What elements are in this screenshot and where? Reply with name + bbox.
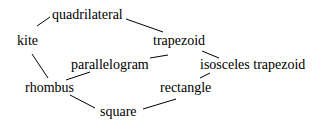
node-square: square (100, 105, 137, 119)
node-parallelogram: parallelogram (71, 58, 149, 72)
node-quadrilateral: quadrilateral (52, 8, 123, 22)
edge-trapezoid-parallelogram (150, 55, 168, 58)
edge-quadrilateral-trapezoid (126, 19, 163, 32)
edge-parallelogram-rhombus (66, 72, 90, 80)
node-rectangle: rectangle (160, 81, 211, 95)
node-kite: kite (17, 34, 38, 48)
node-trapezoid: trapezoid (153, 34, 205, 48)
edge-kite-rhombus (32, 54, 48, 78)
node-isosceles-trapezoid: isosceles trapezoid (200, 58, 305, 72)
edge-quadrilateral-kite (37, 17, 50, 26)
node-rhombus: rhombus (25, 81, 74, 95)
edge-rhombus-square (70, 95, 95, 108)
edge-isosceles-rectangle (200, 73, 210, 78)
edge-rectangle-square (143, 99, 176, 109)
